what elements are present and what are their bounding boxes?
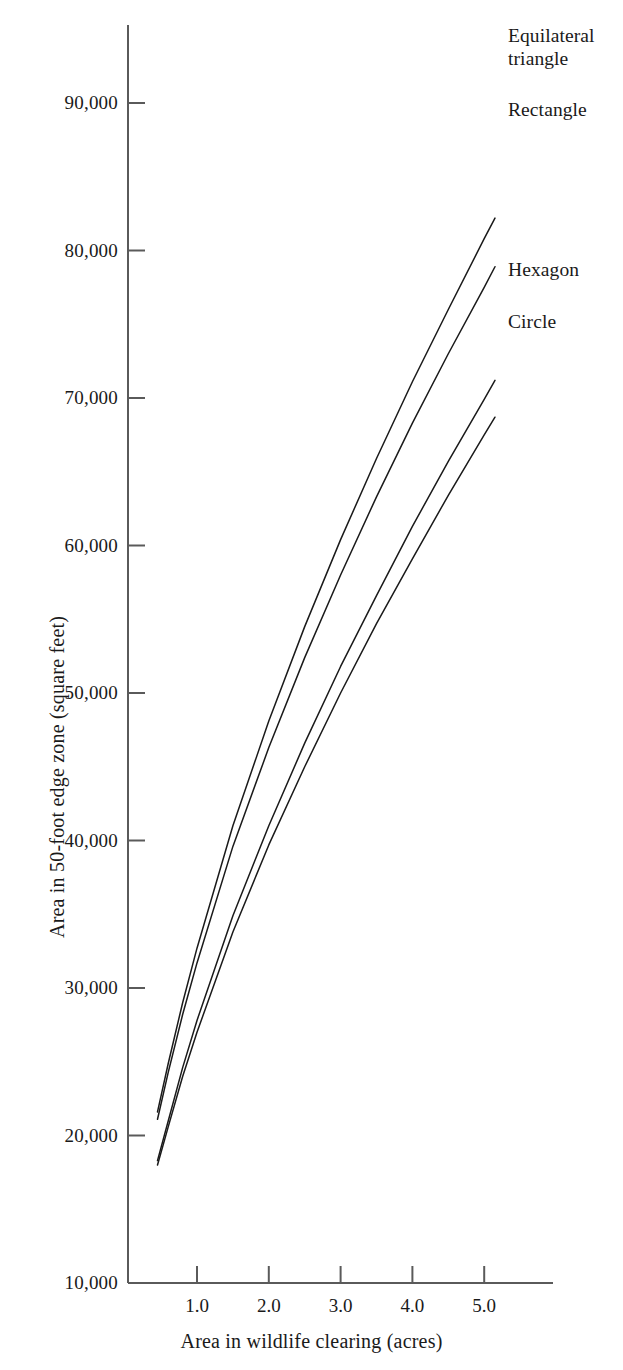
x-tick-label: 2.0	[229, 1296, 309, 1315]
y-tick-label: 50,000	[65, 683, 118, 702]
y-tick-label: 30,000	[65, 978, 118, 997]
series-line-hexagon	[158, 380, 495, 1160]
x-tick-label: 1.0	[157, 1296, 237, 1315]
x-axis-ticks	[197, 1266, 484, 1283]
series-label-equilateral-triangle: Equilateral triangle	[508, 24, 595, 70]
x-axis-title: Area in wildlife clearing (acres)	[0, 1330, 623, 1353]
x-tick-label: 5.0	[444, 1296, 524, 1315]
series-line-rectangle	[158, 267, 495, 1120]
series-label-hexagon: Hexagon	[508, 258, 579, 281]
series-label-rectangle: Rectangle	[508, 98, 587, 121]
series-line-circle	[158, 417, 495, 1165]
y-tick-label: 80,000	[65, 241, 118, 260]
y-tick-label: 60,000	[65, 536, 118, 555]
y-tick-label: 20,000	[65, 1126, 118, 1145]
y-tick-label: 10,000	[65, 1273, 118, 1292]
y-axis-ticks	[128, 103, 145, 1136]
x-tick-label: 3.0	[301, 1296, 381, 1315]
chart-figure: 10,00020,00030,00040,00050,00060,00070,0…	[0, 0, 623, 1370]
y-tick-label: 40,000	[65, 831, 118, 850]
y-tick-label: 70,000	[65, 388, 118, 407]
y-tick-label: 90,000	[65, 93, 118, 112]
series-label-circle: Circle	[508, 310, 556, 333]
series-line-equilateral-triangle	[158, 218, 495, 1112]
x-tick-label: 4.0	[372, 1296, 452, 1315]
series-lines	[158, 218, 495, 1165]
y-axis-title: Area in 50-foot edge zone (square feet)	[46, 616, 69, 938]
